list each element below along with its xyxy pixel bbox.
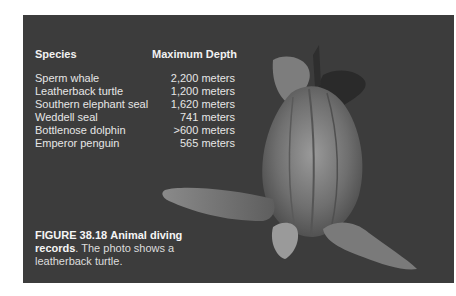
table-row: Bottlenose dolphin >600 meters <box>35 124 235 137</box>
species-cell: Sperm whale <box>35 72 99 85</box>
table-row: Weddell seal 741 meters <box>35 111 235 124</box>
depth-cell: 1,200 meters <box>171 85 235 98</box>
species-cell: Southern elephant seal <box>35 98 148 111</box>
depth-cell: 1,620 meters <box>171 98 235 111</box>
table-row: Leatherback turtle 1,200 meters <box>35 85 235 98</box>
header-species: Species <box>35 48 77 61</box>
species-cell: Leatherback turtle <box>35 85 123 98</box>
figure-panel: Species Maximum Depth Sperm whale 2,200 … <box>23 15 454 283</box>
figure-caption: FIGURE 38.18 Animal diving records. The … <box>35 229 185 268</box>
species-cell: Bottlenose dolphin <box>35 124 126 137</box>
depth-cell: 2,200 meters <box>171 72 235 85</box>
figure-label: FIGURE 38.18 <box>35 229 107 241</box>
species-cell: Weddell seal <box>35 111 98 124</box>
depth-cell: 565 meters <box>180 137 235 150</box>
table-header: Species Maximum Depth <box>35 48 235 61</box>
species-cell: Emperor penguin <box>35 137 119 150</box>
depth-cell: >600 meters <box>174 124 235 137</box>
depth-cell: 741 meters <box>180 111 235 124</box>
table-row: Sperm whale 2,200 meters <box>35 72 235 85</box>
table-row: Emperor penguin 565 meters <box>35 137 235 150</box>
header-max-depth: Maximum Depth <box>152 48 237 61</box>
diving-records-table: Species Maximum Depth Sperm whale 2,200 … <box>35 48 235 150</box>
table-row: Southern elephant seal 1,620 meters <box>35 98 235 111</box>
